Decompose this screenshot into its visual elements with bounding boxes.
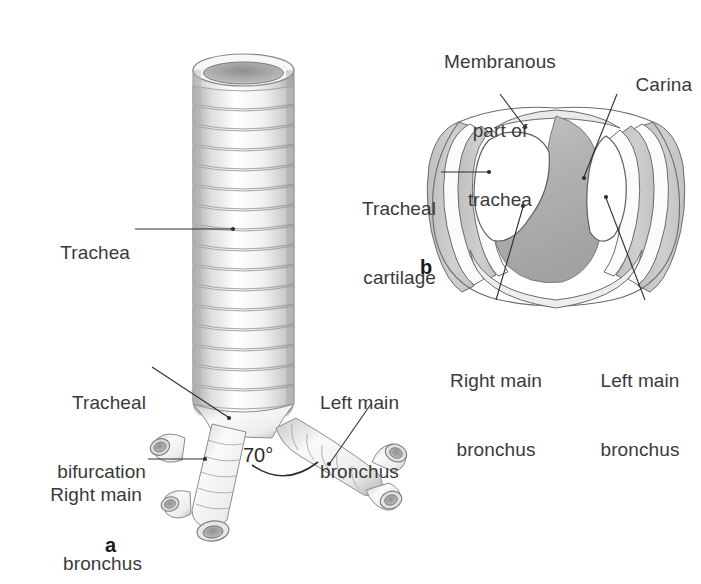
panel-letter-a: a: [105, 534, 116, 557]
label-right-main-bronchus-b: Right main bronchus: [424, 323, 568, 507]
label-carina: Carina: [614, 50, 700, 119]
panel-letter-b: b: [420, 256, 432, 279]
label-membranous-part-of-trachea: Membranous part of trachea: [412, 4, 588, 257]
label-bifurcation-angle: 70°: [243, 444, 273, 467]
label-trachea: Trachea: [0, 218, 130, 287]
label-tracheal-cartilage: Tracheal cartilage: [300, 151, 436, 335]
label-left-main-bronchus-a: Left main bronchus: [320, 345, 440, 529]
anatomy-figure: Trachea Tracheal bifurcation Right main …: [0, 0, 701, 584]
right-main-bronchus: [148, 424, 246, 543]
trachea-tube: [193, 54, 294, 416]
label-left-main-bronchus-b: Left main bronchus: [580, 323, 700, 507]
trachea-lumen: [204, 62, 284, 84]
label-right-main-bronchus-a: Right main bronchus: [0, 437, 142, 584]
